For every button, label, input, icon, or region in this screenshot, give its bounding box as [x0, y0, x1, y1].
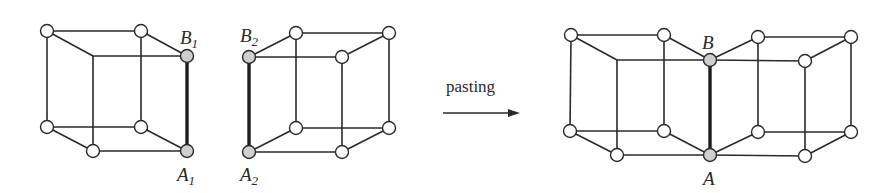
vertex-b [704, 54, 717, 67]
label-a1: A1 [175, 164, 195, 188]
pasting-label: pasting [446, 77, 496, 96]
label-a: A [701, 168, 715, 189]
cube-pasting-diagram: B1 A1 B2 A2 pasting [0, 0, 895, 193]
vertex-a1 [181, 145, 194, 158]
cube-2: B2 A2 [238, 25, 396, 188]
label-b2: B2 [240, 25, 259, 49]
vertex-b1 [181, 50, 194, 63]
label-b1: B1 [180, 27, 198, 51]
vertex-b2 [243, 51, 256, 64]
arrowhead-icon [508, 109, 520, 117]
vertex-a2 [243, 146, 256, 159]
vertex-a [704, 149, 717, 162]
pasting-arrow: pasting [443, 77, 520, 117]
cube-1: B1 A1 [41, 25, 199, 189]
label-a2: A2 [238, 164, 259, 188]
label-b: B [702, 32, 714, 53]
result-complex: B A [564, 29, 858, 190]
